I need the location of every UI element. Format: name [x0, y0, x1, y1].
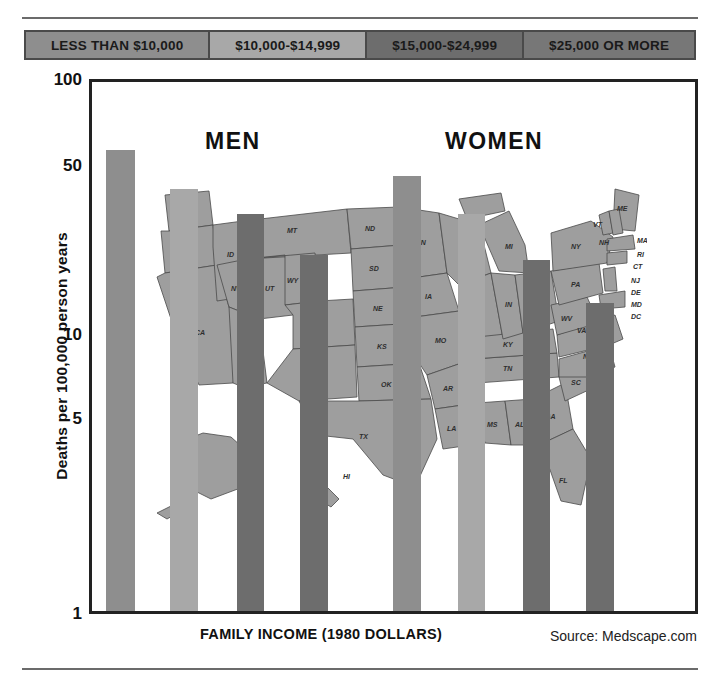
legend-item-label: LESS THAN $10,000: [51, 38, 183, 53]
svg-text:NJ: NJ: [631, 277, 641, 284]
legend-item-3: $25,000 OR MORE: [524, 32, 694, 58]
y-axis: 100 50 10 5 1 Deaths per 100,000 person …: [30, 79, 82, 614]
svg-text:NY: NY: [571, 243, 582, 250]
svg-text:IN: IN: [505, 301, 513, 308]
svg-text:ME: ME: [617, 205, 628, 212]
bar-women-10000-14999: [458, 214, 485, 611]
bar-women-25000-or-more: [586, 303, 614, 611]
source-credit: Source: Medscape.com: [550, 628, 697, 644]
svg-text:DE: DE: [631, 289, 641, 296]
legend: LESS THAN $10,000 $10,000-$14,999 $15,00…: [24, 30, 696, 60]
svg-text:NE: NE: [373, 305, 383, 312]
svg-text:ND: ND: [365, 225, 375, 232]
group-title-men: MEN: [205, 128, 261, 155]
svg-text:OK: OK: [381, 381, 392, 388]
svg-text:CT: CT: [633, 263, 643, 270]
svg-text:VA: VA: [577, 327, 586, 334]
legend-item-label: $10,000-$14,999: [235, 38, 340, 53]
svg-text:KS: KS: [377, 343, 387, 350]
svg-text:MA: MA: [637, 237, 647, 244]
svg-text:MD: MD: [631, 301, 642, 308]
legend-item-0: LESS THAN $10,000: [26, 32, 210, 58]
y-axis-label: Deaths per 100,000 person years: [53, 156, 71, 556]
svg-text:SD: SD: [369, 265, 379, 272]
svg-text:TX: TX: [359, 433, 369, 440]
bar-men-10000-14999: [170, 189, 198, 611]
svg-text:LA: LA: [447, 425, 456, 432]
top-divider: [22, 17, 698, 19]
svg-text:PA: PA: [571, 281, 580, 288]
bar-men-15000-24999: [237, 214, 264, 611]
svg-text:IA: IA: [425, 293, 432, 300]
y-tick-0: 100: [54, 71, 82, 88]
svg-text:FL: FL: [559, 477, 568, 484]
svg-text:VT: VT: [593, 221, 603, 228]
plot-area: WA OR CA ID NV AZ UT MT WY CO NM ND SD N…: [89, 79, 698, 614]
svg-text:KY: KY: [503, 341, 514, 348]
svg-text:DC: DC: [631, 313, 642, 320]
svg-text:MI: MI: [505, 243, 514, 250]
legend-item-2: $15,000-$24,999: [367, 32, 524, 58]
svg-text:HI: HI: [343, 473, 351, 480]
bar-men-25000-or-more: [300, 255, 328, 611]
svg-text:MS: MS: [487, 421, 498, 428]
svg-text:AK: AK: [218, 481, 230, 488]
legend-item-label: $15,000-$24,999: [392, 38, 497, 53]
svg-text:TN: TN: [503, 365, 513, 372]
svg-text:AR: AR: [442, 385, 453, 392]
y-tick-3: 5: [73, 410, 82, 427]
bar-women-15000-24999: [523, 260, 550, 611]
svg-text:MO: MO: [435, 337, 447, 344]
legend-item-label: $25,000 OR MORE: [549, 38, 669, 53]
bar-men-less-than-10000: [106, 150, 135, 611]
svg-text:UT: UT: [265, 285, 275, 292]
chart-page: LESS THAN $10,000 $10,000-$14,999 $15,00…: [0, 0, 719, 683]
bottom-divider: [22, 668, 698, 670]
svg-text:WY: WY: [287, 277, 300, 284]
svg-text:NH: NH: [599, 239, 610, 246]
svg-text:SC: SC: [571, 379, 582, 386]
svg-text:WV: WV: [561, 315, 574, 322]
svg-text:RI: RI: [637, 251, 645, 258]
bar-women-less-than-10000: [393, 176, 421, 611]
svg-text:MT: MT: [287, 227, 298, 234]
y-tick-4: 1: [73, 605, 82, 622]
legend-item-1: $10,000-$14,999: [210, 32, 367, 58]
svg-text:ID: ID: [227, 251, 234, 258]
x-axis-label: FAMILY INCOME (1980 DOLLARS): [200, 626, 442, 642]
group-title-women: WOMEN: [445, 128, 543, 155]
